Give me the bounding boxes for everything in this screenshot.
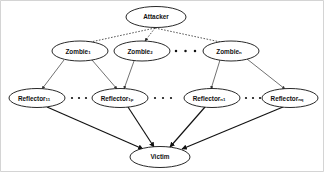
edge-zombie-n-to-reflector-n1 bbox=[211, 60, 220, 89]
node-zombie-1[interactable]: Zombie1 bbox=[52, 41, 108, 61]
node-reflector-nq[interactable]: Reflectornq bbox=[262, 89, 318, 108]
edge-group-zombies-reflectors bbox=[42, 59, 285, 89]
diagram-canvas: Attacker Zombie1 Zombie2 Zombien bbox=[0, 0, 324, 172]
edge-zombie-2-to-reflector-1p bbox=[124, 61, 134, 89]
ellipsis-reflector-gap-middle bbox=[154, 97, 172, 99]
node-reflector-1p[interactable]: Reflector1p bbox=[92, 89, 148, 108]
edge-attacker-to-zombie-n bbox=[155, 28, 225, 43]
node-victim[interactable]: Victim bbox=[130, 147, 190, 168]
edge-reflector-11-to-victim bbox=[47, 107, 143, 149]
edge-zombie-n-to-reflector-nq bbox=[247, 59, 285, 89]
edge-zombie-1-to-reflector-11 bbox=[42, 60, 64, 89]
ellipsis-reflector-gap-left bbox=[71, 97, 87, 99]
node-zombie-2[interactable]: Zombie2 bbox=[114, 41, 170, 61]
edge-attacker-to-zombie-2 bbox=[145, 28, 155, 41]
node-attacker[interactable]: Attacker bbox=[126, 7, 186, 28]
ellipsis-zombie-gap bbox=[175, 50, 206, 53]
edge-reflector-1p-to-victim bbox=[128, 107, 154, 147]
drdos-topology-diagram: Attacker Zombie1 Zombie2 Zombien bbox=[0, 0, 324, 172]
edge-zombie-1-to-reflector-1p bbox=[92, 60, 117, 89]
node-victim-label: Victim bbox=[150, 153, 169, 160]
edge-reflector-nq-to-victim bbox=[182, 107, 283, 149]
edge-group-reflectors-victim bbox=[47, 107, 283, 149]
node-reflector-n1[interactable]: Reflectorn1 bbox=[184, 89, 240, 108]
node-reflector-11[interactable]: Reflector11 bbox=[9, 89, 65, 108]
node-attacker-label: Attacker bbox=[143, 13, 169, 20]
node-zombie-n[interactable]: Zombien bbox=[203, 41, 259, 61]
edge-group-attacker-zombies bbox=[86, 28, 225, 43]
ellipsis-reflector-gap-right bbox=[245, 97, 261, 99]
